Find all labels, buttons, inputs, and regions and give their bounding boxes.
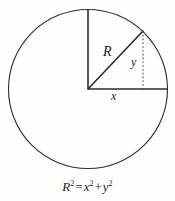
equation-plus-sign: + bbox=[93, 179, 102, 194]
label-radius-R: R bbox=[103, 45, 112, 59]
label-vertical-leg-y: y bbox=[131, 56, 136, 68]
equation-caption: R2=x2+y2 bbox=[0, 179, 175, 195]
equation-equals-sign: = bbox=[74, 179, 83, 194]
geometry-figure: R y x R2=x2+y2 bbox=[0, 0, 175, 201]
geometry-canvas bbox=[0, 0, 175, 201]
equation-term2-exponent: 2 bbox=[109, 179, 113, 188]
label-horizontal-leg-x: x bbox=[111, 90, 116, 102]
